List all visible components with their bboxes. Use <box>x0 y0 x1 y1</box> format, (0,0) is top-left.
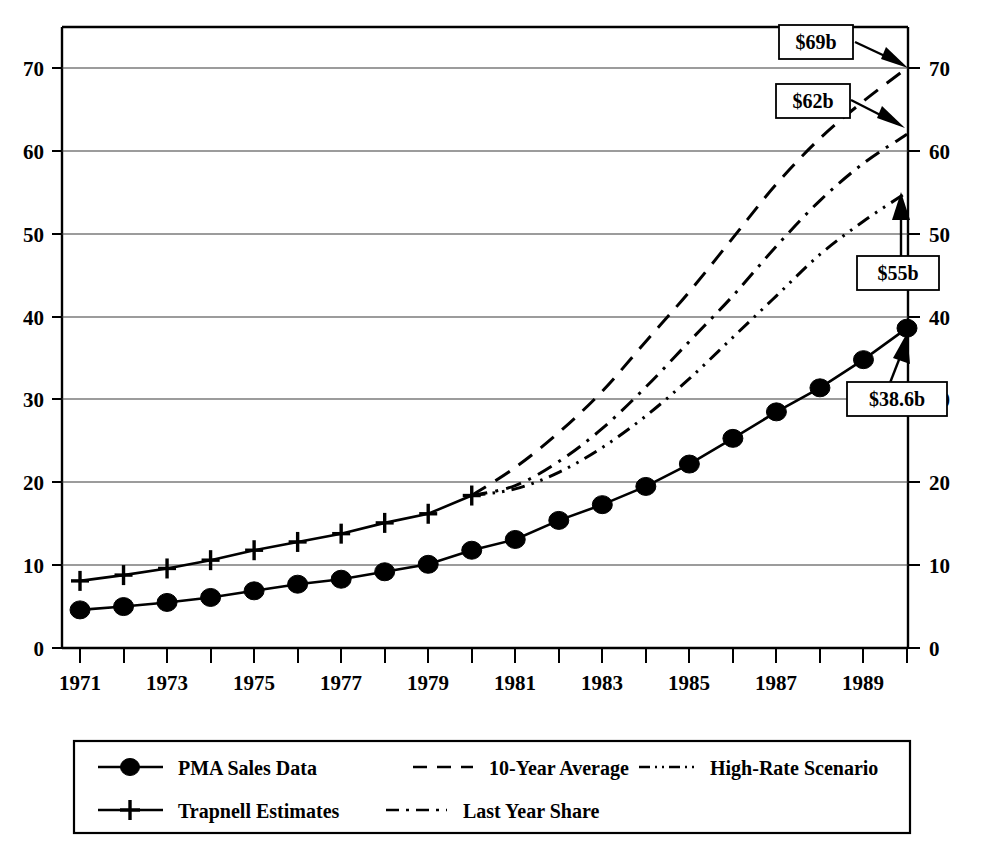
data-point-marker <box>244 582 264 600</box>
data-point-marker <box>418 555 438 573</box>
ylabel-right-50: 50 <box>929 223 950 247</box>
legend-label-high-rate-scenario: High-Rate Scenario <box>710 757 878 780</box>
ylabel-left-70: 70 <box>23 57 44 81</box>
data-point-marker <box>505 530 525 548</box>
ylabel-left-0: 0 <box>34 637 45 661</box>
ylabel-right-10: 10 <box>929 554 950 578</box>
data-point-marker <box>70 601 90 619</box>
ylabel-right-40: 40 <box>929 306 950 330</box>
data-point-marker <box>723 429 743 447</box>
ylabel-right-60: 60 <box>929 140 950 164</box>
data-point-marker <box>549 511 569 529</box>
data-point-marker <box>201 588 221 606</box>
line-chart-figure: 70 60 50 40 30 20 10 0 70 60 50 40 30 20… <box>0 0 985 844</box>
ylabel-right-70: 70 <box>929 57 950 81</box>
y-axis-right-ticks: 70 60 50 40 30 20 10 0 <box>908 57 950 661</box>
chart-container: 70 60 50 40 30 20 10 0 70 60 50 40 30 20… <box>0 0 985 844</box>
annotation-69b-label: $69b <box>795 31 836 53</box>
annotation-38-6b-label: $38.6b <box>869 388 925 410</box>
data-point-marker <box>375 563 395 581</box>
x-axis-labels: 1971 1973 1975 1977 1979 1981 1983 1985 … <box>59 671 884 695</box>
legend-label-pma-sales-data: PMA Sales Data <box>178 757 317 779</box>
ylabel-left-60: 60 <box>23 140 44 164</box>
data-point-marker <box>853 351 873 369</box>
legend: PMA Sales Data 10-Year Average High-Rate… <box>74 741 910 833</box>
legend-label-trapnell-estimates: Trapnell Estimates <box>178 800 340 823</box>
data-point-marker <box>331 570 351 588</box>
legend-label-last-year-share: Last Year Share <box>463 800 599 822</box>
legend-marker-filled-circle-icon <box>121 759 140 776</box>
plot-background <box>62 27 908 648</box>
data-point-marker <box>157 593 177 611</box>
xlabel-1977: 1977 <box>320 671 362 695</box>
legend-label-10-year-average: 10-Year Average <box>489 757 629 780</box>
y-axis-left-ticks: 70 60 50 40 30 20 10 0 <box>23 57 62 661</box>
plot-frame <box>62 27 908 648</box>
xlabel-1985: 1985 <box>668 671 710 695</box>
ylabel-left-20: 20 <box>23 471 44 495</box>
xlabel-1979: 1979 <box>407 671 449 695</box>
data-point-marker <box>679 455 699 473</box>
xlabel-1975: 1975 <box>233 671 275 695</box>
data-point-marker <box>462 541 482 559</box>
xlabel-1971: 1971 <box>59 671 101 695</box>
data-point-marker <box>592 496 612 514</box>
data-point-marker <box>766 403 786 421</box>
xlabel-1981: 1981 <box>494 671 536 695</box>
ylabel-left-50: 50 <box>23 223 44 247</box>
ylabel-right-0: 0 <box>929 637 940 661</box>
xlabel-1983: 1983 <box>581 671 623 695</box>
xlabel-1973: 1973 <box>146 671 188 695</box>
ylabel-left-10: 10 <box>23 554 44 578</box>
xlabel-1989: 1989 <box>842 671 884 695</box>
xlabel-1987: 1987 <box>755 671 797 695</box>
ylabel-right-20: 20 <box>929 471 950 495</box>
annotation-62b-label: $62b <box>792 90 833 112</box>
legend-item-pma-sales-data[interactable]: PMA Sales Data <box>98 757 317 779</box>
data-point-marker <box>636 477 656 495</box>
ylabel-left-40: 40 <box>23 306 44 330</box>
x-axis-ticks <box>80 648 907 663</box>
annotation-55b-label: $55b <box>877 262 918 284</box>
data-point-marker <box>114 598 134 616</box>
data-point-marker <box>810 379 830 397</box>
ylabel-left-30: 30 <box>23 388 44 412</box>
data-point-marker <box>288 575 308 593</box>
